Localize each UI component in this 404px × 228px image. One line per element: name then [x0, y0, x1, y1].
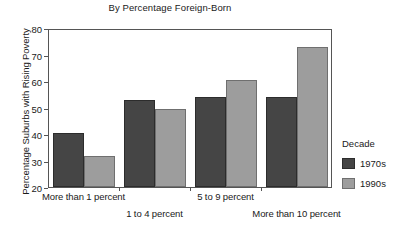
legend-label: 1970s — [360, 158, 386, 169]
bar — [155, 109, 186, 187]
x-tick-mark — [261, 187, 262, 191]
y-tick-label: 30 — [31, 156, 42, 167]
y-tick-mark — [44, 82, 48, 83]
bar — [266, 97, 297, 187]
x-axis-label: 5 to 9 percent — [197, 191, 254, 202]
y-axis-line — [48, 29, 49, 188]
y-tick-mark — [44, 135, 48, 136]
bar — [124, 100, 155, 187]
bar — [195, 97, 226, 187]
bar — [53, 133, 84, 187]
y-tick-mark — [44, 188, 48, 189]
bar — [297, 47, 328, 187]
legend: Decade 1970s1990s — [342, 138, 404, 198]
legend-item: 1990s — [342, 178, 404, 189]
plot-frame-top — [48, 29, 332, 30]
plot-frame-right — [331, 29, 332, 188]
y-tick-label: 40 — [31, 130, 42, 141]
y-tick-label: 80 — [31, 24, 42, 35]
y-tick-mark — [44, 162, 48, 163]
x-axis-label: More than 10 percent — [252, 208, 340, 219]
y-tick-label: 70 — [31, 50, 42, 61]
legend-swatch — [342, 158, 355, 169]
y-tick-label: 50 — [31, 103, 42, 114]
legend-item: 1970s — [342, 158, 404, 169]
legend-title: Decade — [342, 138, 404, 149]
bar — [226, 80, 257, 187]
y-tick-label: 20 — [31, 183, 42, 194]
x-tick-mark — [190, 187, 191, 191]
chart-figure: By Percentage Foreign-Born Percentage Su… — [0, 0, 404, 228]
legend-items: 1970s1990s — [342, 158, 404, 189]
chart-title: By Percentage Foreign-Born — [0, 2, 340, 13]
y-tick-mark — [44, 109, 48, 110]
y-tick-mark — [44, 29, 48, 30]
legend-label: 1990s — [360, 178, 386, 189]
legend-swatch — [342, 178, 355, 189]
plot-area: 20304050607080 — [48, 29, 332, 188]
y-tick-mark — [44, 56, 48, 57]
x-axis-label: More than 1 percent — [42, 191, 125, 202]
y-tick-label: 60 — [31, 77, 42, 88]
x-axis-label: 1 to 4 percent — [126, 208, 183, 219]
bar — [84, 156, 115, 187]
y-axis-title: Percentage Suburbs with Rising Poverty — [20, 24, 31, 199]
